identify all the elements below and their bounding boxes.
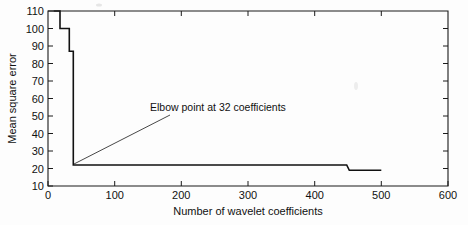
x-tick-label: 500 bbox=[372, 189, 390, 201]
y-tick-label: 10 bbox=[32, 180, 44, 192]
y-tick-label: 80 bbox=[32, 58, 44, 70]
data-series-group bbox=[53, 11, 381, 170]
figure-container: 110 100 90 80 70 60 50 40 30 20 10 0 100… bbox=[0, 0, 468, 225]
x-tick-label: 400 bbox=[306, 189, 324, 201]
y-axis-ticks bbox=[48, 11, 53, 186]
series-line-mean-square-error bbox=[53, 11, 381, 170]
y-axis-title: Mean square error bbox=[6, 53, 18, 144]
x-tick-label: 0 bbox=[45, 189, 51, 201]
elbow-annotation-leader-line bbox=[74, 115, 170, 164]
x-tick-label: 100 bbox=[106, 189, 124, 201]
x-tick-label: 300 bbox=[239, 189, 257, 201]
top-axis-ticks bbox=[115, 11, 382, 16]
plot-frame bbox=[48, 11, 448, 186]
y-tick-label: 70 bbox=[32, 75, 44, 87]
y-tick-label: 30 bbox=[32, 145, 44, 157]
y-tick-label: 20 bbox=[32, 163, 44, 175]
elbow-annotation-label: Elbow point at 32 coefficients bbox=[150, 101, 286, 113]
x-axis-title: Number of wavelet coefficients bbox=[173, 205, 323, 217]
y-tick-labels: 110 100 90 80 70 60 50 40 30 20 10 bbox=[26, 5, 44, 192]
x-tick-label: 200 bbox=[172, 189, 190, 201]
y-tick-label: 50 bbox=[32, 110, 44, 122]
x-tick-label: 600 bbox=[439, 189, 457, 201]
mean-square-error-chart: 110 100 90 80 70 60 50 40 30 20 10 0 100… bbox=[0, 0, 468, 225]
x-tick-labels: 0 100 200 300 400 500 600 bbox=[45, 189, 457, 201]
y-tick-label: 40 bbox=[32, 128, 44, 140]
y-tick-label: 110 bbox=[26, 5, 44, 17]
right-axis-ticks bbox=[443, 29, 448, 169]
y-tick-label: 60 bbox=[32, 93, 44, 105]
x-axis-ticks bbox=[48, 181, 448, 186]
y-tick-label: 100 bbox=[26, 23, 44, 35]
y-tick-label: 90 bbox=[32, 40, 44, 52]
